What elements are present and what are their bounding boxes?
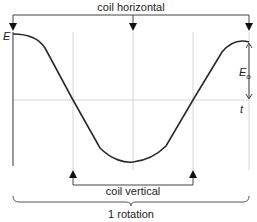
coil-horizontal-bracket [13,15,249,24]
arrow-down-icon [9,23,253,31]
arrow-up-icon [69,170,197,178]
rotation-brace [13,196,249,206]
emf-rotation-diagram: coil horizontal coil vertical 1 rotation… [0,0,257,222]
coil-vertical-bracket [73,177,193,185]
y-axis-label: E [3,30,11,42]
x-axis-label: t [240,103,244,115]
amplitude-arrow [246,43,252,99]
coil-vertical-label: coil vertical [106,185,160,197]
emf-curve [13,34,249,162]
rotation-label: 1 rotation [108,208,154,220]
coil-horizontal-label: coil horizontal [97,1,164,13]
